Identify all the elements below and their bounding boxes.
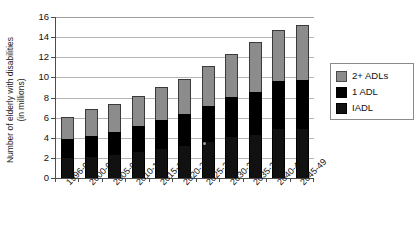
bar-segment	[249, 42, 262, 92]
bar-column[interactable]	[150, 17, 173, 178]
bar-segment	[61, 139, 74, 157]
y-tick-mark	[51, 57, 55, 58]
bar-column[interactable]	[220, 17, 243, 178]
bar-column[interactable]	[56, 17, 79, 178]
y-tick-mark	[51, 118, 55, 119]
y-tick-mark	[51, 37, 55, 38]
y-tick-label: 8	[19, 93, 49, 103]
x-axis-labels: 1996-002000-042005-092010-142015-192020-…	[55, 180, 313, 237]
y-tick-mark	[51, 98, 55, 99]
y-tick-label: 6	[19, 113, 49, 123]
bar-segment	[249, 92, 262, 133]
plot-area	[55, 17, 314, 179]
legend-label-2-adls: 2+ ADLs	[352, 71, 388, 81]
y-tick-mark	[51, 138, 55, 139]
legend-label-iadl: IADL	[352, 103, 373, 113]
legend-swatch-iadl	[336, 103, 347, 114]
bar-column[interactable]	[103, 17, 126, 178]
y-tick-label: 2	[19, 153, 49, 163]
bar-segment	[296, 25, 309, 80]
y-tick-label: 10	[19, 73, 49, 83]
bar-segment	[108, 132, 121, 154]
bar-segment	[108, 104, 121, 132]
bar-column[interactable]	[267, 17, 290, 178]
legend-swatch-2-adls	[336, 71, 347, 82]
bar-segment	[132, 126, 145, 151]
bar-column[interactable]	[197, 17, 220, 178]
bar-segment	[272, 81, 285, 127]
y-tick-mark	[51, 77, 55, 78]
bar-segment	[155, 87, 168, 119]
bar-segment	[178, 79, 191, 113]
bar-segment	[202, 66, 215, 105]
bar-segment	[85, 109, 98, 136]
bar-column[interactable]	[173, 17, 196, 178]
bar-column[interactable]	[126, 17, 149, 178]
y-tick-mark	[51, 17, 55, 18]
bar-segment	[296, 80, 309, 127]
bar-column[interactable]	[79, 17, 102, 178]
y-tick-label: 4	[19, 133, 49, 143]
bar-series-group	[56, 17, 314, 178]
legend-item-1-adl: 1 ADL	[336, 84, 409, 100]
bar-segment	[225, 97, 238, 136]
y-tick-label: 0	[19, 173, 49, 183]
chart-legend: 2+ ADLs 1 ADL IADL	[330, 63, 414, 120]
stacked-bar[interactable]	[61, 117, 74, 178]
bar-segment	[85, 136, 98, 156]
bar-segment	[202, 106, 215, 141]
legend-item-iadl: IADL	[336, 100, 409, 116]
y-tick-label: 12	[19, 53, 49, 63]
y-tick-mark	[51, 158, 55, 159]
legend-swatch-1-adl	[336, 87, 347, 98]
legend-item-2-adls: 2+ ADLs	[336, 68, 409, 84]
y-tick-label: 16	[19, 12, 49, 22]
y-axis-title-line1: Number of elderly with disabilities	[5, 37, 15, 163]
bar-segment	[225, 54, 238, 96]
y-tick-label: 14	[19, 32, 49, 42]
bar-segment	[272, 30, 285, 81]
bar-segment	[132, 96, 145, 126]
stacked-bar[interactable]	[296, 25, 309, 178]
bar-column[interactable]	[244, 17, 267, 178]
bar-segment	[61, 117, 74, 139]
image-artifact-speck	[203, 142, 206, 145]
bar-segment	[155, 120, 168, 148]
chart-figure: Number of elderly with disabilities (in …	[0, 0, 418, 237]
legend-label-1-adl: 1 ADL	[352, 87, 378, 97]
bar-segment	[178, 114, 191, 145]
bar-column[interactable]	[291, 17, 314, 178]
